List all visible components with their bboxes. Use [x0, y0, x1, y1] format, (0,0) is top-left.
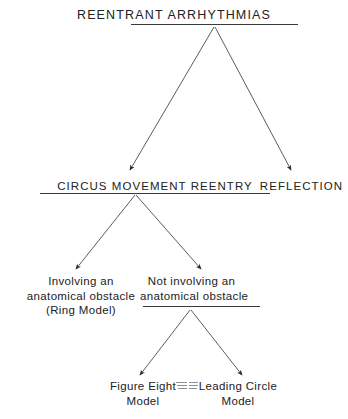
node-reflection-label: REFLECTION [255, 179, 348, 193]
node-leading-circle-model-line-1: Leading Circle [186, 379, 290, 394]
node-reentrant-arrhythmias-underline [131, 24, 298, 25]
reentrant-arrhythmias-diagram: REENTRANT ARRHYTHMIAS CIRCUS MOVEMENT RE… [0, 0, 348, 419]
node-figure-eight-model-line-1: Figure Eight [95, 379, 191, 394]
edge-no-obstacle-to-figure-eight [140, 310, 190, 375]
edge-circus-to-ring-model [76, 195, 135, 269]
node-ring-model-line-1: Involving an [16, 274, 146, 289]
edge-root-to-reflection [215, 27, 291, 170]
node-circus-movement-reentry: CIRCUS MOVEMENT REENTRY [34, 179, 276, 193]
node-leading-circle-model: Leading Circle Model [186, 379, 290, 408]
edge-circus-to-no-anatomical-obstacle [136, 195, 201, 269]
node-figure-eight-model: Figure Eight Model [95, 379, 191, 408]
node-ring-model-line-3: (Ring Model) [16, 303, 146, 318]
edge-layer [0, 0, 348, 419]
node-figure-eight-model-line-2: Model [95, 394, 191, 409]
node-reentrant-arrhythmias-label: REENTRANT ARRHYTHMIAS [0, 8, 348, 22]
node-no-anatomical-obstacle-underline [143, 306, 260, 307]
node-reflection: REFLECTION [255, 179, 348, 193]
node-circus-movement-reentry-label: CIRCUS MOVEMENT REENTRY [34, 179, 276, 193]
node-leading-circle-model-line-2: Model [186, 394, 290, 409]
edge-root-to-circus-movement-reentry [130, 27, 214, 170]
node-reentrant-arrhythmias: REENTRANT ARRHYTHMIAS [0, 8, 348, 22]
node-no-anatomical-obstacle: Not involving an anatomical obstacle [140, 274, 243, 303]
edge-no-obstacle-to-leading-circle [191, 310, 242, 375]
node-ring-model-line-2: anatomical obstacle [16, 289, 146, 304]
node-no-anatomical-obstacle-line-2: anatomical obstacle [140, 289, 243, 304]
node-ring-model: Involving an anatomical obstacle (Ring M… [16, 274, 146, 318]
node-circus-movement-reentry-underline [40, 193, 270, 194]
node-no-anatomical-obstacle-line-1: Not involving an [140, 274, 243, 289]
